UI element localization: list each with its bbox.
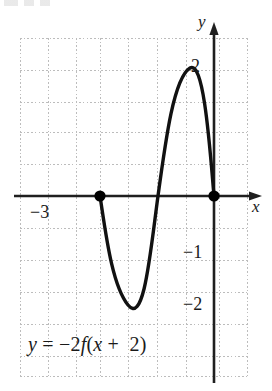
endpoint-right bbox=[208, 190, 219, 201]
equation-label: y = −2f(x + 2) bbox=[28, 334, 147, 354]
endpoint-left bbox=[94, 190, 105, 201]
y-tick-label-2: 2 bbox=[191, 57, 200, 75]
y-tick-label-minus2: −2 bbox=[183, 295, 202, 313]
y-axis-label: y bbox=[198, 13, 206, 30]
equation-coefficient: −2 bbox=[59, 333, 81, 355]
equation-plus: + bbox=[108, 333, 119, 355]
y-tick-label-minus1: −1 bbox=[183, 243, 202, 261]
equation-argument: x bbox=[93, 333, 102, 355]
equation-lhs: y bbox=[28, 333, 37, 355]
x-tick-label-minus3: −3 bbox=[30, 203, 49, 221]
x-axis-label: x bbox=[252, 198, 260, 215]
x-axis bbox=[14, 191, 262, 200]
equation-equals: = bbox=[42, 333, 53, 355]
equation-close-paren: ) bbox=[140, 333, 147, 355]
equation-shift: 2 bbox=[129, 333, 139, 355]
y-axis bbox=[209, 22, 218, 383]
figure-canvas: y x 2 −1 −2 −3 y = −2f(x + 2) bbox=[0, 0, 272, 391]
